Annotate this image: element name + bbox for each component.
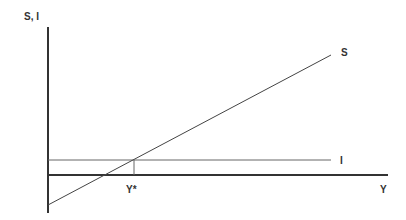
savings-label: S bbox=[341, 47, 348, 58]
equilibrium-label: Y* bbox=[126, 184, 137, 195]
diagram-canvas: S, I Y S I Y* bbox=[0, 0, 406, 220]
investment-label: I bbox=[340, 155, 343, 166]
y-axis-label: S, I bbox=[24, 11, 39, 22]
x-axis-label: Y bbox=[380, 184, 387, 195]
savings-line bbox=[48, 55, 331, 205]
